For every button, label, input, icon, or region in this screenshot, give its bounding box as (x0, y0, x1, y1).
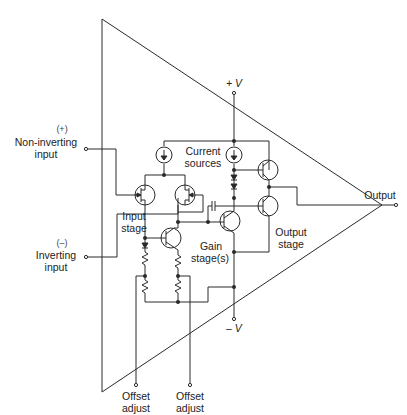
inverting-label: Inverting (30, 249, 82, 261)
level-shift-transistor (145, 222, 181, 250)
input-stage-label: Input (118, 210, 150, 222)
current-source-left (156, 141, 172, 175)
gain-stage-transistor (220, 198, 240, 233)
gain-stage-label: Gain (191, 240, 231, 252)
non-inverting-input-wire (84, 147, 140, 195)
offset-adjust-left-label: Offset (118, 390, 154, 402)
inverting-label-line2: input (30, 261, 82, 273)
op-amp-schematic (0, 0, 407, 415)
offset-adjust-right-label: Offset (172, 390, 208, 402)
left-resistor-chain (142, 238, 148, 302)
input-transistor-right (175, 185, 203, 212)
output-stage-label: Output (271, 226, 311, 238)
inverting-sign: (–) (42, 237, 82, 249)
current-source-right (226, 141, 242, 170)
input-stage-label-line2: stage (118, 222, 150, 234)
output-transistor-upper (234, 160, 278, 187)
non-inverting-label: Non-inverting (10, 136, 82, 148)
non-inverting-label-line2: input (10, 148, 82, 160)
gain-stage-label-line2: stage(s) (186, 252, 234, 264)
negative-supply-label: – V (220, 322, 248, 334)
output-label: Output (358, 189, 402, 201)
input-transistor-left (135, 185, 155, 205)
non-inverting-sign: (+) (42, 123, 82, 135)
current-sources-label-line2: sources (178, 157, 228, 169)
positive-supply-label: + V (220, 77, 248, 89)
offset-adjust-right-label-line2: adjust (172, 402, 208, 414)
bias-diodes (231, 170, 237, 198)
output-stage-label-line2: stage (271, 238, 311, 250)
offset-adjust-right-wire (178, 276, 190, 383)
offset-adjust-left-label-line2: adjust (118, 402, 154, 414)
current-sources-label: Current (178, 145, 228, 157)
